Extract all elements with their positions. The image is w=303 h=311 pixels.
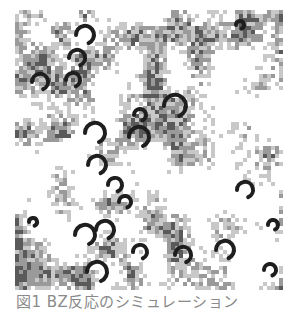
figure-caption: 図1 BZ反応のシミュレーション [16, 293, 239, 311]
bz-reaction-simulation-image [15, 10, 283, 290]
reaction-diffusion-pattern [15, 10, 283, 290]
